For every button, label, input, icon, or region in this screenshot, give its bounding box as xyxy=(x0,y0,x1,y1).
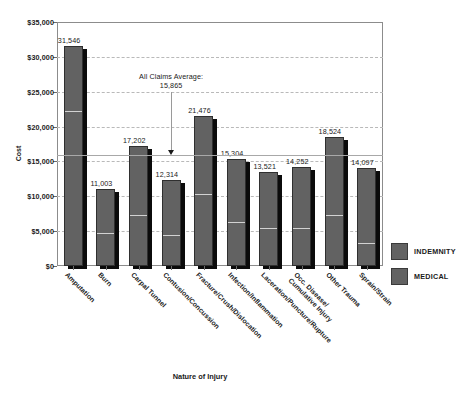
x-tick-mark xyxy=(171,266,172,270)
legend-swatch-medical xyxy=(391,268,408,285)
x-axis-label: Fracture/Crush/Dislocation xyxy=(194,271,263,340)
legend-label-indemnity: INDEMNITY xyxy=(414,247,456,256)
legend-item-indemnity: INDEMNITY xyxy=(391,243,456,260)
bar-body xyxy=(162,180,181,266)
y-axis-title: Cost xyxy=(15,124,22,184)
y-tick-label: $5,000 xyxy=(0,227,54,236)
y-tick-label: $25,000 xyxy=(0,88,54,97)
bar-value-label: 12,314 xyxy=(156,170,200,179)
bar-segment-divider xyxy=(130,215,147,216)
y-tick-label: $35,000 xyxy=(0,18,54,27)
bar-segment-divider xyxy=(195,194,212,195)
x-tick-mark xyxy=(269,266,270,270)
bar-value-label: 21,476 xyxy=(188,106,232,115)
bar-value-label: 11,003 xyxy=(90,179,134,188)
bar-6: 13,521 xyxy=(259,172,278,266)
x-tick-mark xyxy=(139,266,140,270)
bar-segment-divider xyxy=(326,215,343,216)
bar-2: 17,202 xyxy=(129,146,148,266)
x-tick-mark xyxy=(204,266,205,270)
legend-label-medical: MEDICAL xyxy=(414,272,449,281)
x-tick-mark xyxy=(302,266,303,270)
legend: INDEMNITY MEDICAL xyxy=(391,243,456,293)
legend-item-medical: MEDICAL xyxy=(391,268,456,285)
x-axis-label: Infection/Inflammation xyxy=(227,271,285,329)
bar-segment-divider xyxy=(260,228,277,229)
bar-value-label: 18,524 xyxy=(319,127,363,136)
bar-body xyxy=(96,189,115,266)
bar-segment-divider xyxy=(163,235,180,236)
bar-value-label: 14,252 xyxy=(286,157,330,166)
bar-9: 14,097 xyxy=(357,168,376,266)
bar-value-label: 31,546 xyxy=(58,36,102,45)
bar-body xyxy=(259,172,278,266)
bar-body xyxy=(194,116,213,266)
bar-value-label: 14,097 xyxy=(351,158,395,167)
bar-1: 11,003 xyxy=(96,189,115,266)
gridline xyxy=(57,57,383,58)
bar-body xyxy=(227,159,246,266)
bar-segment-divider xyxy=(293,228,310,229)
x-axis-title: Nature of Injury xyxy=(110,372,290,381)
average-reference-line xyxy=(57,155,383,156)
bar-body xyxy=(357,168,376,266)
x-axis-label: Sprain/Strain xyxy=(357,271,393,307)
y-tick-label: $0 xyxy=(0,262,54,271)
average-annotation-leader-line xyxy=(171,92,172,151)
bar-value-label: 17,202 xyxy=(123,136,167,145)
x-tick-mark xyxy=(236,266,237,270)
x-axis-label: Contusion/Concussion xyxy=(162,271,221,330)
x-tick-mark xyxy=(73,266,74,270)
average-annotation-text: All Claims Average:15,865 xyxy=(111,72,231,90)
y-tick-label: $10,000 xyxy=(0,192,54,201)
x-tick-mark xyxy=(334,266,335,270)
y-tick-label: $30,000 xyxy=(0,53,54,62)
bar-5: 15,304 xyxy=(227,159,246,266)
bar-4: 21,476 xyxy=(194,116,213,266)
bar-body xyxy=(129,146,148,266)
legend-swatch-indemnity xyxy=(391,243,408,260)
x-axis-label: Burn xyxy=(97,271,114,288)
bar-7: 14,252 xyxy=(292,167,311,266)
y-tick-label: $20,000 xyxy=(0,123,54,132)
bar-body xyxy=(292,167,311,266)
x-axis-label: Amputation xyxy=(64,271,97,304)
bar-segment-divider xyxy=(97,233,114,234)
bar-segment-divider xyxy=(228,222,245,223)
average-annotation-arrowhead xyxy=(168,150,174,155)
bar-segment-divider xyxy=(358,243,375,244)
bar-value-label: 15,304 xyxy=(221,149,265,158)
bar-segment-divider xyxy=(65,111,82,112)
bar-3: 12,314 xyxy=(162,180,181,266)
chart-container: Cost Nature of Injury $35,000$30,000$25,… xyxy=(0,0,471,398)
x-tick-mark xyxy=(106,266,107,270)
gridline xyxy=(57,92,383,93)
y-tick-label: $15,000 xyxy=(0,157,54,166)
x-tick-mark xyxy=(367,266,368,270)
